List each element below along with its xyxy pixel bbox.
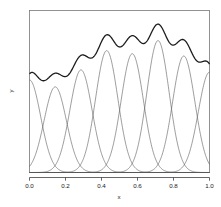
x-tick-label: 0.4	[97, 182, 106, 189]
x-tick-label: 0.8	[169, 182, 178, 189]
x-tick-label: 0.2	[61, 182, 70, 189]
x-tick-label: 1.0	[205, 182, 214, 189]
chart-figure: 0.00.20.40.60.81.0 x y	[0, 0, 221, 207]
x-tick-label: 0.6	[133, 182, 142, 189]
gaussian-basis-plot: 0.00.20.40.60.81.0 x y	[0, 0, 221, 207]
figure-background	[0, 0, 221, 207]
x-tick-label: 0.0	[25, 182, 34, 189]
